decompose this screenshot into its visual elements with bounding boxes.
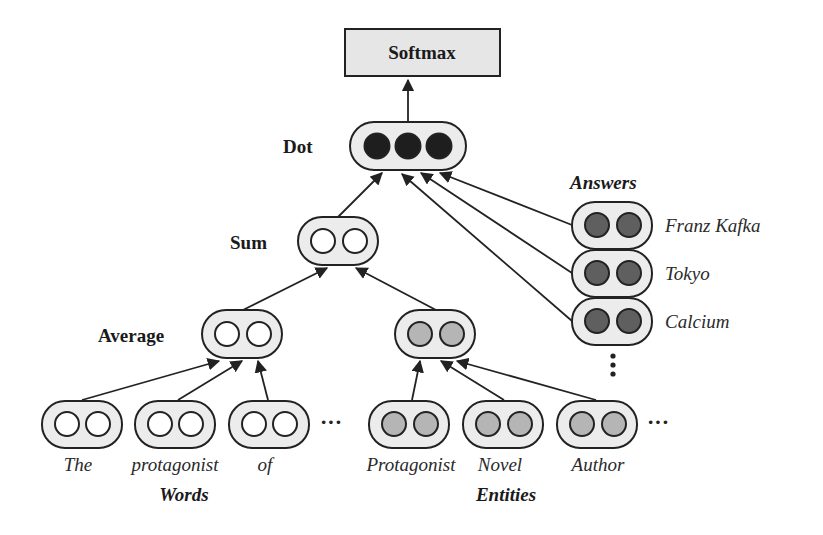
architecture-diagram: Softmax Dot Sum Average Answers Fran (0, 0, 823, 535)
entity-item: Author (557, 401, 637, 475)
edge-sum-to-dot (338, 173, 382, 217)
dot-unit-3 (427, 134, 452, 159)
word-label: The (64, 454, 93, 475)
answer-unit (585, 261, 609, 285)
answer-unit (617, 261, 641, 285)
sum-unit-1 (311, 229, 335, 253)
entity-label: Novel (477, 454, 522, 475)
answers-group: Answers Franz Kafka Tokyo Calcium (569, 172, 761, 377)
edge-entity-2-to-avg (441, 361, 504, 400)
edge-word-2-to-average (178, 361, 242, 400)
words-group: The protagonist of ··· Words (42, 401, 342, 505)
entity-unit (476, 412, 500, 436)
answer-item: Tokyo (572, 250, 710, 297)
edge-word-3-to-average (258, 361, 268, 400)
sum-label: Sum (230, 232, 267, 253)
edge-answer-3-to-dot (402, 174, 572, 321)
dot-unit-2 (396, 134, 421, 159)
answer-unit (617, 309, 641, 333)
entity-unit (508, 412, 532, 436)
entity-label: Author (570, 454, 625, 475)
answer-label: Tokyo (665, 263, 710, 284)
average-unit-1 (215, 322, 239, 346)
edge-average-to-sum (243, 268, 327, 310)
answer-label: Calcium (665, 311, 729, 332)
word-unit (242, 412, 266, 436)
sum-unit-2 (343, 229, 367, 253)
entity-unit (602, 412, 626, 436)
answer-item: Calcium (572, 298, 729, 345)
word-unit (148, 412, 172, 436)
edge-entity-avg-to-sum (356, 268, 436, 310)
entity-unit (382, 412, 406, 436)
average-unit-2 (247, 322, 271, 346)
sum-node: Sum (230, 217, 378, 265)
entity-aggregate-unit-2 (440, 322, 464, 346)
word-unit (179, 412, 203, 436)
word-unit (273, 412, 297, 436)
answer-label: Franz Kafka (664, 215, 761, 236)
answers-title: Answers (569, 172, 637, 193)
dot-node: Dot (283, 122, 466, 170)
answer-unit (585, 309, 609, 333)
entity-unit (570, 412, 594, 436)
answer-unit (617, 213, 641, 237)
entities-group: Protagonist Novel Author ··· Entities (365, 401, 669, 505)
word-item: of (229, 401, 309, 475)
entities-title: Entities (475, 484, 536, 505)
entity-aggregate-unit-1 (408, 322, 432, 346)
softmax-label: Softmax (388, 42, 456, 63)
softmax-node: Softmax (345, 29, 500, 76)
entity-item: Protagonist (365, 401, 456, 475)
word-unit (55, 412, 79, 436)
words-ellipsis: ··· (320, 409, 342, 434)
word-label: protagonist (130, 454, 220, 475)
answers-vertical-ellipsis (610, 353, 615, 376)
word-item: The (42, 401, 122, 475)
entity-aggregate-node (395, 310, 475, 358)
entity-label: Protagonist (365, 454, 456, 475)
answer-unit (585, 213, 609, 237)
entity-unit (414, 412, 438, 436)
dot-unit-1 (365, 134, 390, 159)
edge-word-1-to-average (82, 361, 219, 400)
average-label: Average (98, 325, 164, 346)
edge-entity-3-to-avg (457, 361, 596, 400)
word-item: protagonist (130, 401, 220, 475)
answer-item: Franz Kafka (572, 202, 761, 249)
edge-answer-2-to-dot (421, 173, 572, 273)
average-node: Average (98, 310, 282, 358)
dot-label: Dot (283, 136, 313, 157)
entity-item: Novel (463, 401, 543, 475)
word-unit (86, 412, 110, 436)
entities-ellipsis: ··· (647, 409, 669, 434)
words-title: Words (159, 484, 208, 505)
word-label: of (258, 454, 276, 475)
edge-entity-1-to-avg (412, 361, 420, 400)
